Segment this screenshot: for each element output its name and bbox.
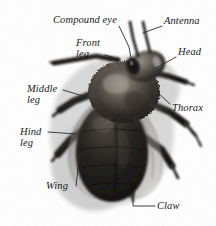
label-hind-leg: Hind leg <box>20 126 41 148</box>
label-compound-eye: Compound eye <box>53 14 117 26</box>
label-middle-leg: Middle leg <box>27 83 57 105</box>
label-front-leg: Front leg <box>76 37 100 59</box>
label-antenna: Antenna <box>164 15 200 27</box>
label-wing: Wing <box>46 180 68 192</box>
label-head: Head <box>178 46 201 58</box>
bee-anatomy-figure: Compound eye Antenna Front leg Head Midd… <box>0 0 216 226</box>
label-thorax: Thorax <box>172 102 203 114</box>
label-claw: Claw <box>157 200 180 212</box>
